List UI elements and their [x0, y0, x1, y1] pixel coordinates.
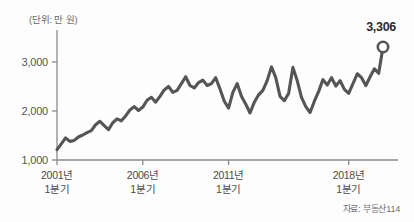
x-tick-group: 2001년1분기2006년1분기2011년1분기2018년1분기 [41, 160, 365, 195]
axis-group [57, 30, 398, 160]
x-tick-quarter-label: 1분기 [216, 183, 241, 195]
y-tick-label: 1,000 [21, 154, 48, 166]
x-tick-year-label: 2011년 [213, 169, 244, 181]
x-tick-year-label: 2001년 [41, 169, 73, 181]
y-tick-label: 2,000 [21, 105, 48, 117]
x-tick-quarter-label: 1분기 [336, 183, 361, 195]
y-tick-label: 3,000 [21, 56, 48, 68]
source-note: 자료: 부동산114 [343, 202, 400, 215]
x-tick-year-label: 2018년 [333, 169, 365, 181]
chart-container: (단위: 만 원) 3,306 1,0002,0003,000 2001년1분기… [0, 0, 414, 222]
x-tick-quarter-label: 1분기 [130, 183, 155, 195]
final-point-marker [378, 42, 388, 52]
line-chart-plot: 1,0002,0003,000 2001년1분기2006년1분기2011년1분기… [0, 0, 414, 222]
price-series-line [57, 47, 383, 150]
x-tick-quarter-label: 1분기 [45, 183, 70, 195]
y-tick-group: 1,0002,0003,000 [21, 56, 57, 166]
x-tick-year-label: 2006년 [127, 169, 159, 181]
